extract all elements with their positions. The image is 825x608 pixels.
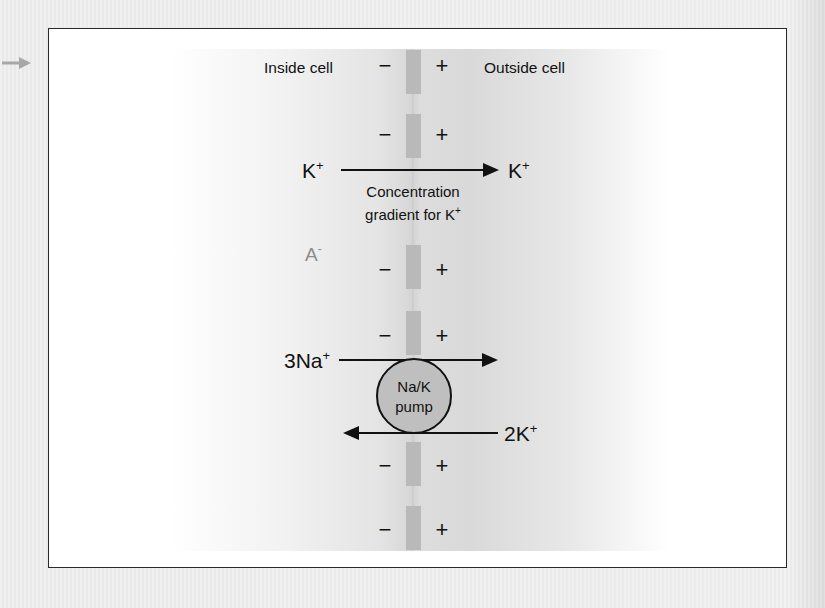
membrane-potential-figure: − + − + − + − + − + − + Inside cell Outs… [48,28,787,568]
na-k-pump-icon [377,359,451,433]
pump-label-line2: pump [376,397,452,416]
potassium-gradient-arrow [341,163,499,177]
diagram-arrows [49,29,787,568]
pump-label-line1: Na/K [376,377,452,396]
arrow-right-icon [2,56,32,70]
